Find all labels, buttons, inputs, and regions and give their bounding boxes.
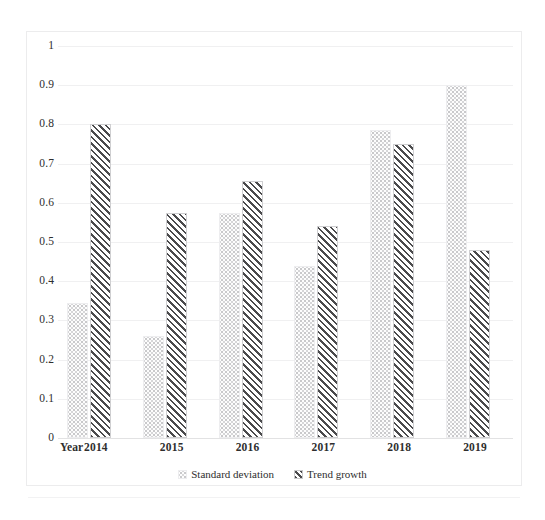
bar-standard-deviation-2015[interactable] bbox=[143, 336, 164, 438]
x-tick-label-2014: 2014 bbox=[59, 442, 133, 454]
bar-group-2016 bbox=[211, 46, 285, 438]
bar-group-2018 bbox=[362, 46, 436, 438]
bar-standard-deviation-2014[interactable] bbox=[67, 303, 88, 438]
bar-group-2015 bbox=[135, 46, 209, 438]
y-tick-label-0.5: 0.5 bbox=[20, 236, 54, 248]
bar-standard-deviation-2016[interactable] bbox=[219, 213, 240, 438]
bar-standard-deviation-2018[interactable] bbox=[370, 130, 391, 438]
x-axis: 201420152016201720182019 bbox=[58, 442, 513, 462]
x-tick-label-2015: 2015 bbox=[135, 442, 209, 454]
bar-group-2019 bbox=[438, 46, 512, 438]
x-tick-label-2016: 2016 bbox=[211, 442, 285, 454]
legend-swatch-trend-growth-icon bbox=[294, 470, 303, 479]
bar-standard-deviation-2019[interactable] bbox=[446, 85, 467, 438]
y-tick-label-0.8: 0.8 bbox=[20, 118, 54, 130]
y-axis: 00.10.20.30.40.50.60.70.80.91 bbox=[16, 46, 54, 438]
legend-label-standard-deviation: Standard deviation bbox=[191, 469, 274, 480]
legend-label-trend-growth: Trend growth bbox=[307, 469, 367, 480]
x-tick-label-2019: 2019 bbox=[438, 442, 512, 454]
gridline-0 bbox=[58, 438, 513, 439]
y-tick-label-0.7: 0.7 bbox=[20, 158, 54, 170]
bar-trend-growth-2018[interactable] bbox=[393, 144, 414, 438]
bar-trend-growth-2017[interactable] bbox=[317, 226, 338, 438]
y-tick-label-0.2: 0.2 bbox=[20, 354, 54, 366]
bar-trend-growth-2019[interactable] bbox=[469, 250, 490, 438]
legend-item-standard-deviation[interactable]: Standard deviation bbox=[178, 469, 274, 480]
y-tick-label-0.9: 0.9 bbox=[20, 79, 54, 91]
bar-group-2017 bbox=[286, 46, 360, 438]
bar-trend-growth-2014[interactable] bbox=[90, 124, 111, 438]
y-tick-label-0.4: 0.4 bbox=[20, 275, 54, 287]
x-tick-label-2017: 2017 bbox=[286, 442, 360, 454]
bar-trend-growth-2016[interactable] bbox=[242, 181, 263, 438]
legend-item-trend-growth[interactable]: Trend growth bbox=[294, 469, 367, 480]
y-tick-label-0.1: 0.1 bbox=[20, 393, 54, 405]
bars-layer bbox=[58, 46, 513, 438]
scan-edge-line bbox=[28, 497, 520, 498]
y-tick-label-1: 1 bbox=[20, 40, 54, 52]
bar-standard-deviation-2017[interactable] bbox=[294, 266, 315, 438]
y-tick-label-0: 0 bbox=[20, 432, 54, 444]
bar-trend-growth-2015[interactable] bbox=[166, 213, 187, 438]
bar-group-2014 bbox=[59, 46, 133, 438]
y-tick-label-0.3: 0.3 bbox=[20, 314, 54, 326]
chart-legend: Standard deviation Trend growth bbox=[0, 469, 545, 480]
legend-swatch-standard-deviation-icon bbox=[178, 470, 187, 479]
x-tick-label-2018: 2018 bbox=[362, 442, 436, 454]
y-tick-label-0.6: 0.6 bbox=[20, 197, 54, 209]
